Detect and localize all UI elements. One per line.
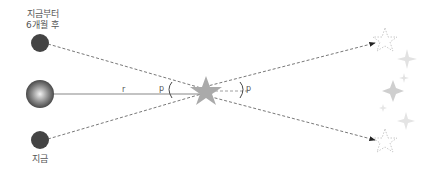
- label-earth-now: 지금: [32, 154, 48, 165]
- parallax-diagram: [0, 0, 435, 177]
- sight-line-future: [48, 43, 378, 92]
- label-parallax-right: p: [246, 83, 251, 94]
- parallax-arc-right: [240, 82, 243, 98]
- target-star: [190, 76, 222, 105]
- background-star: [397, 49, 417, 69]
- label-parallax-left: p: [159, 83, 164, 94]
- label-earth-future-line2: 6개월 후: [26, 20, 59, 31]
- sun: [26, 80, 54, 108]
- parallax-arc-left: [169, 82, 172, 98]
- apparent-star-bottom: [373, 129, 397, 152]
- background-star: [399, 73, 409, 83]
- earth-future: [31, 34, 49, 52]
- apparent-star-top: [373, 28, 397, 51]
- label-distance-r: r: [122, 84, 125, 95]
- label-earth-future-line1: 지금부터: [27, 9, 59, 20]
- background-star: [397, 112, 415, 130]
- background-star: [379, 104, 387, 112]
- background-star: [382, 80, 404, 102]
- earth-now: [31, 131, 49, 149]
